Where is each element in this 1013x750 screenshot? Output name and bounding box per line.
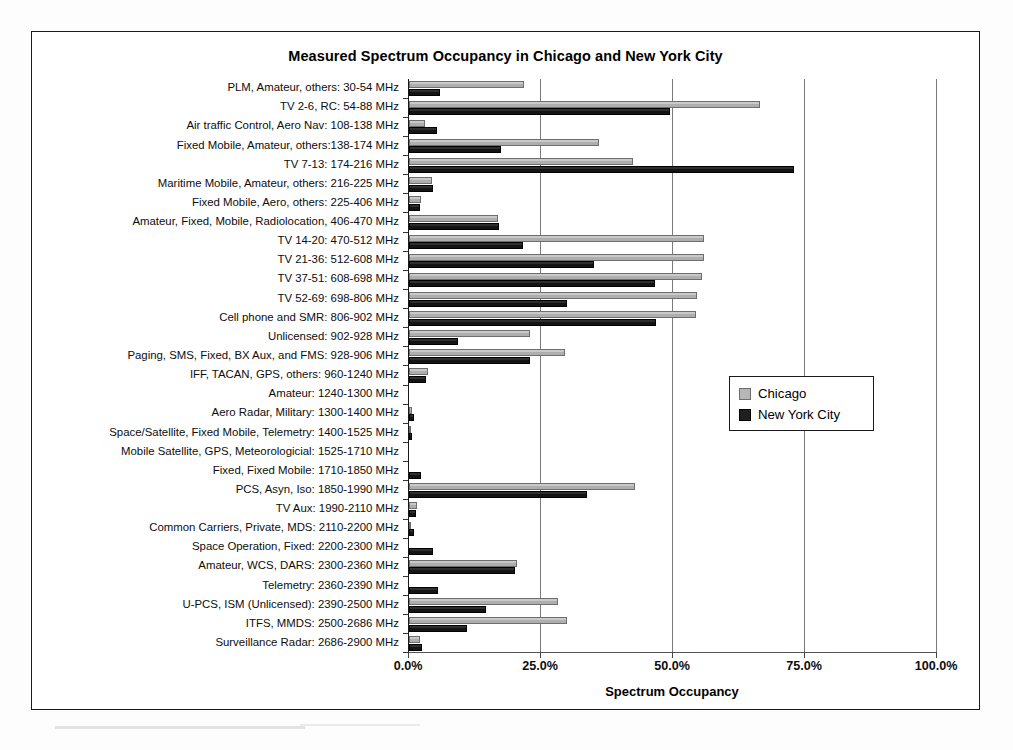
bar-new-york-city [409, 644, 422, 651]
bar-row: Amateur, Fixed, Mobile, Radiolocation, 4… [408, 213, 936, 232]
y-axis-category-label: TV 14-20: 470-512 MHz [277, 235, 399, 246]
bar-new-york-city [409, 89, 440, 96]
x-tick [936, 652, 937, 658]
bar-row: TV 52-69: 698-806 MHz [408, 289, 936, 308]
chart-title: Measured Spectrum Occupancy in Chicago a… [32, 48, 979, 64]
y-axis-category-label: TV 52-69: 698-806 MHz [277, 293, 399, 304]
bar-new-york-city [409, 204, 420, 211]
y-axis-category-label: Common Carriers, Private, MDS: 2110-2200… [149, 522, 399, 533]
bar-chicago [409, 426, 411, 433]
plot-area: PLM, Amateur, others: 30-54 MHzTV 2-6, R… [408, 79, 936, 653]
bar-new-york-city [409, 567, 515, 574]
bar-row: Fixed Mobile, Aero, others: 225-406 MHz [408, 194, 936, 213]
bar-row: TV 37-51: 608-698 MHz [408, 270, 936, 289]
bar-row: TV 2-6, RC: 54-88 MHz [408, 98, 936, 117]
bar-new-york-city [409, 529, 414, 536]
bar-row: Cell phone and SMR: 806-902 MHz [408, 309, 936, 328]
bar-chicago [409, 483, 635, 490]
bar-chicago [409, 177, 432, 184]
y-axis-category-label: IFF, TACAN, GPS, others: 960-1240 MHz [190, 369, 399, 380]
bar-row: Maritime Mobile, Amateur, others: 216-22… [408, 175, 936, 194]
bar-row: TV 14-20: 470-512 MHz [408, 232, 936, 251]
bar-row: Space Operation, Fixed: 2200-2300 MHz [408, 538, 936, 557]
bar-chicago [409, 311, 696, 318]
y-axis-category-label: Unlicensed: 902-928 MHz [268, 331, 399, 342]
y-axis-category-label: Aero Radar, Military: 1300-1400 MHz [212, 407, 399, 418]
bar-chicago [409, 560, 517, 567]
bar-chicago [409, 235, 704, 242]
bar-new-york-city [409, 491, 587, 498]
bar-new-york-city [409, 548, 433, 555]
bar-new-york-city [409, 357, 530, 364]
y-axis-category-label: TV 7-13: 174-216 MHz [284, 159, 399, 170]
bar-new-york-city [409, 376, 426, 383]
y-axis-category-label: ITFS, MMDS: 2500-2686 MHz [246, 618, 399, 629]
y-axis-category-label: TV 37-51: 608-698 MHz [277, 273, 399, 284]
bar-chicago [409, 81, 524, 88]
y-axis-category-label: PCS, Asyn, Iso: 1850-1990 MHz [236, 484, 399, 495]
bar-row: Air traffic Control, Aero Nav: 108-138 M… [408, 117, 936, 136]
bar-chicago [409, 215, 498, 222]
y-axis-category-label: Amateur: 1240-1300 MHz [269, 388, 399, 399]
scan-artifact [55, 726, 305, 729]
y-axis-category-label: Mobile Satellite, GPS, Meteorologicial: … [121, 446, 399, 457]
bar-row: Fixed, Fixed Mobile: 1710-1850 MHz [408, 462, 936, 481]
bar-new-york-city [409, 433, 412, 440]
bar-new-york-city [409, 625, 467, 632]
y-axis-category-label: Fixed, Fixed Mobile: 1710-1850 MHz [213, 465, 399, 476]
bar-row: Common Carriers, Private, MDS: 2110-2200… [408, 519, 936, 538]
chart-page: Measured Spectrum Occupancy in Chicago a… [0, 0, 1013, 750]
bar-new-york-city [409, 319, 656, 326]
legend-label-new-york-city: New York City [758, 407, 840, 422]
y-axis-category-label: Space Operation, Fixed: 2200-2300 MHz [192, 541, 399, 552]
bar-chicago [409, 407, 412, 414]
bar-chicago [409, 254, 704, 261]
bar-new-york-city [409, 280, 655, 287]
bar-chicago [409, 349, 565, 356]
bar-row: Surveillance Radar: 2686-2900 MHz [408, 634, 936, 653]
bar-new-york-city [409, 414, 414, 421]
y-axis-category-label: U-PCS, ISM (Unlicensed): 2390-2500 MHz [183, 599, 400, 610]
y-axis-category-label: Fixed Mobile, Aero, others: 225-406 MHz [192, 197, 399, 208]
y-axis-category-label: Fixed Mobile, Amateur, others:138-174 MH… [177, 140, 399, 151]
x-tick-label: 0.0% [394, 659, 423, 673]
bar-new-york-city [409, 108, 670, 115]
x-tick-label: 75.0% [786, 659, 822, 673]
bar-row: TV 7-13: 174-216 MHz [408, 156, 936, 175]
y-axis-category-label: TV 2-6, RC: 54-88 MHz [280, 101, 399, 112]
y-axis-category-label: TV Aux: 1990-2110 MHz [276, 503, 399, 514]
y-axis-category-label: Air traffic Control, Aero Nav: 108-138 M… [186, 120, 399, 131]
bar-row: Mobile Satellite, GPS, Meteorologicial: … [408, 443, 936, 462]
bar-chicago [409, 101, 760, 108]
scan-artifact [300, 724, 420, 726]
y-axis-category-label: Space/Satellite, Fixed Mobile, Telemetry… [109, 427, 399, 438]
chart-legend: Chicago New York City [729, 376, 874, 431]
x-axis-tick-labels: 0.0%25.0%50.0%75.0%100.0% [408, 659, 936, 679]
bar-chicago [409, 139, 599, 146]
y-axis-category-label: Telemetry: 2360-2390 MHz [262, 580, 399, 591]
bar-chicago [409, 120, 425, 127]
legend-item-new-york-city: New York City [739, 407, 864, 422]
y-tick [403, 652, 408, 653]
bar-new-york-city [409, 242, 523, 249]
bar-row: TV Aux: 1990-2110 MHz [408, 500, 936, 519]
bar-row: ITFS, MMDS: 2500-2686 MHz [408, 615, 936, 634]
bar-chicago [409, 273, 702, 280]
bar-row: Amateur, WCS, DARS: 2300-2360 MHz [408, 557, 936, 576]
x-tick-label: 50.0% [654, 659, 690, 673]
bar-row: PCS, Asyn, Iso: 1850-1990 MHz [408, 481, 936, 500]
bar-chicago [409, 292, 697, 299]
bar-chicago [409, 598, 558, 605]
y-axis-category-label: Amateur, WCS, DARS: 2300-2360 MHz [198, 560, 399, 571]
bar-new-york-city [409, 185, 433, 192]
legend-label-chicago: Chicago [758, 386, 806, 401]
bar-row: TV 21-36: 512-608 MHz [408, 251, 936, 270]
bar-row: Fixed Mobile, Amateur, others:138-174 MH… [408, 136, 936, 155]
bar-new-york-city [409, 223, 499, 230]
x-tick-label: 25.0% [522, 659, 558, 673]
chart-frame: Measured Spectrum Occupancy in Chicago a… [31, 31, 980, 710]
bar-new-york-city [409, 261, 594, 268]
bar-row: Unlicensed: 902-928 MHz [408, 328, 936, 347]
bar-chicago [409, 522, 411, 529]
bar-new-york-city [409, 338, 458, 345]
